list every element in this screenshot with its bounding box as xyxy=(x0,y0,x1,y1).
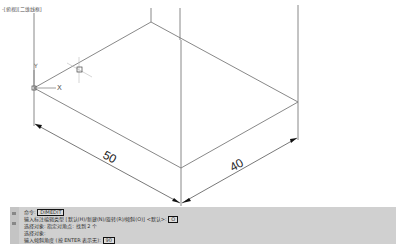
command-input-dimedit: DIMEDIT xyxy=(37,209,64,216)
ucs-y-label: Y xyxy=(33,62,38,69)
viewport-controls-label[interactable]: -[俯视][二维线框] xyxy=(2,6,42,13)
crosshair-cursor-icon xyxy=(67,57,92,83)
drawing-canvas[interactable]: X Y xyxy=(0,0,403,206)
command-prompt-text: 命令: xyxy=(24,209,37,215)
command-line-panel[interactable]: 命令: DIMEDIT 输入标注编辑类型 [默认(H)/新建(N)/旋转(R)/… xyxy=(10,207,396,244)
command-line-gutter[interactable] xyxy=(10,207,19,244)
command-history: 命令: DIMEDIT 输入标注编辑类型 [默认(H)/新建(N)/旋转(R)/… xyxy=(24,209,178,244)
command-input-option: O xyxy=(168,216,178,223)
settings-icon[interactable] xyxy=(12,222,16,225)
command-input-angle[interactable]: 90 xyxy=(103,237,115,244)
command-line-4: 选择对象: xyxy=(24,230,178,237)
command-line-5[interactable]: 输入倾斜角度 (按 ENTER 表示无): 90 xyxy=(24,237,178,244)
drawing-viewport[interactable]: X Y -[俯视][二维线框] 50 40 xyxy=(0,0,403,206)
dimension-lines xyxy=(35,124,297,203)
close-icon[interactable] xyxy=(12,212,16,215)
command-line-1: 命令: DIMEDIT xyxy=(24,209,178,216)
command-prompt-text: 输入标注编辑类型 [默认(H)/新建(N)/旋转(R)/倾斜(O)] <默认>: xyxy=(24,216,168,222)
command-line-2: 输入标注编辑类型 [默认(H)/新建(N)/旋转(R)/倾斜(O)] <默认>:… xyxy=(24,216,178,223)
dimension-arrows xyxy=(35,124,297,203)
ucs-x-label: X xyxy=(57,84,62,92)
command-prompt-text: 输入倾斜角度 (按 ENTER 表示无): xyxy=(24,237,103,243)
command-line-3: 选择对象: 指定对角点: 找到 2 个 xyxy=(24,223,178,230)
box-geometry xyxy=(34,5,298,206)
